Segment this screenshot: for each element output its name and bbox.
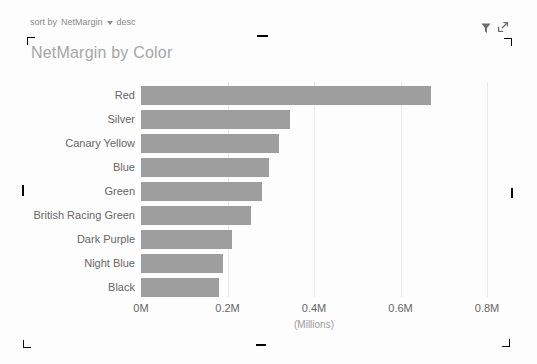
category-label[interactable]: British Racing Green [20,206,135,225]
category-label[interactable]: Blue [20,158,135,177]
category-label[interactable]: Silver [20,110,135,129]
category-label[interactable]: Red [20,86,135,105]
x-axis-tick-label: 0M [119,302,163,314]
bar[interactable] [141,86,431,105]
bar-chart: RedSilverCanary YellowBlueGreenBritish R… [0,0,537,364]
category-label[interactable]: Canary Yellow [20,134,135,153]
category-label[interactable]: Black [20,278,135,297]
x-axis-tick-label: 0.6M [379,302,423,314]
bar[interactable] [141,134,279,153]
category-label[interactable]: Green [20,182,135,201]
gridline [487,82,488,297]
bar[interactable] [141,182,262,201]
visual-container: sort by NetMargin desc NetMargin by Colo… [0,0,537,364]
category-label[interactable]: Night Blue [20,254,135,273]
x-axis-tick-label: 0.4M [292,302,336,314]
x-axis-unit-label: (Millions) [254,319,374,330]
bar[interactable] [141,230,232,249]
gridline [314,82,315,297]
gridline [401,82,402,297]
bar[interactable] [141,158,269,177]
category-label[interactable]: Dark Purple [20,230,135,249]
bar[interactable] [141,110,290,129]
bar[interactable] [141,206,251,225]
x-axis-tick-label: 0.2M [206,302,250,314]
bar[interactable] [141,278,219,297]
bar[interactable] [141,254,223,273]
x-axis-tick-label: 0.8M [465,302,509,314]
